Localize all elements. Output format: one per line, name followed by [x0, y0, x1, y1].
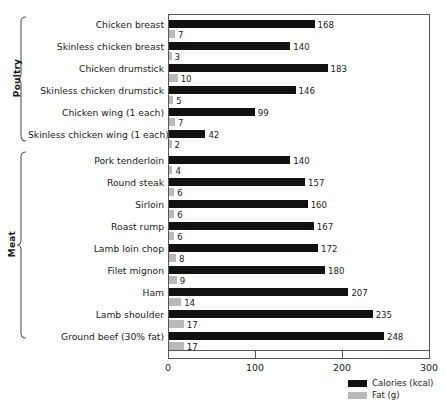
bar-calories	[169, 266, 325, 274]
bar-calories	[169, 332, 384, 340]
bar-value-fat: 17	[187, 343, 198, 351]
bar-calories	[169, 108, 255, 116]
bar-value-fat: 9	[180, 277, 185, 285]
bar-value-fat: 6	[177, 233, 182, 241]
bar-fat	[169, 96, 173, 104]
bar-fat	[169, 232, 174, 240]
bar-calories	[169, 156, 290, 164]
x-axis-line	[168, 358, 430, 359]
category-label: Lamb loin chop	[28, 244, 164, 254]
bar-value-calories: 248	[387, 333, 403, 341]
bar-fat	[169, 52, 172, 60]
bar-value-fat: 3	[175, 53, 180, 61]
bar-fat	[169, 140, 172, 148]
bar-fat	[169, 276, 177, 284]
x-tick-label: 100	[246, 362, 264, 373]
category-label: Pork tenderloin	[28, 156, 164, 166]
category-label: Skinless chicken drumstick	[28, 86, 164, 96]
legend-entry-calories: Calories (kcal)	[348, 378, 433, 389]
bar-fat	[169, 74, 178, 82]
legend: Calories (kcal) Fat (g)	[348, 378, 433, 402]
bar-value-fat: 4	[175, 167, 180, 175]
bar-calories	[169, 310, 373, 318]
bar-fat	[169, 188, 174, 196]
bar-value-calories: 172	[321, 245, 337, 253]
category-label: Sirloin	[28, 200, 164, 210]
x-tick-label: 0	[165, 362, 171, 373]
bar-value-calories: 157	[308, 179, 324, 187]
bar-fat	[169, 166, 172, 174]
category-label: Chicken breast	[28, 20, 164, 30]
bar-value-fat: 14	[184, 299, 195, 307]
bar-chart: Poultry Meat Chicken breast Skinless chi…	[0, 0, 446, 404]
x-tick	[255, 351, 256, 358]
bar-value-calories: 183	[331, 65, 347, 73]
legend-label-fat: Fat (g)	[372, 391, 400, 400]
legend-swatch-calories	[348, 380, 367, 387]
category-label: Chicken wing (1 each)	[28, 108, 164, 118]
category-label: Skinless chicken breast	[28, 42, 164, 52]
bar-calories	[169, 130, 205, 138]
bar-value-fat: 7	[178, 119, 183, 127]
bar-value-calories: 140	[293, 157, 309, 165]
x-tick-label: 200	[333, 362, 351, 373]
bar-value-fat: 5	[176, 97, 181, 105]
bar-value-fat: 8	[179, 255, 184, 263]
bar-calories	[169, 244, 318, 252]
bar-calories	[169, 64, 328, 72]
bar-calories	[169, 222, 314, 230]
category-label: Filet mignon	[28, 266, 164, 276]
bar-calories	[169, 20, 315, 28]
bar-value-fat: 10	[181, 75, 192, 83]
bar-fat	[169, 210, 174, 218]
x-tick	[342, 351, 343, 358]
category-label: Chicken drumstick	[28, 64, 164, 74]
category-label: Round steak	[28, 178, 164, 188]
bar-value-calories: 167	[317, 223, 333, 231]
bar-value-fat: 17	[187, 321, 198, 329]
legend-swatch-fat	[348, 392, 367, 399]
category-label: Ground beef (30% fat)	[28, 332, 164, 342]
group-label-meat: Meat	[7, 214, 17, 274]
bar-fat	[169, 30, 175, 38]
bar-value-calories: 180	[328, 267, 344, 275]
bar-value-calories: 42	[208, 131, 219, 139]
bar-value-fat: 2	[175, 141, 180, 149]
x-tick	[168, 351, 169, 358]
category-label: Roast rump	[28, 222, 164, 232]
bar-value-calories: 99	[258, 109, 269, 117]
bar-calories	[169, 200, 308, 208]
category-label: Lamb shoulder	[28, 310, 164, 320]
bar-calories	[169, 178, 305, 186]
bar-calories	[169, 42, 290, 50]
legend-entry-fat: Fat (g)	[348, 390, 433, 401]
bar-value-calories: 168	[318, 21, 334, 29]
bar-value-calories: 207	[351, 289, 367, 297]
bar-fat	[169, 342, 184, 350]
bar-value-calories: 146	[299, 87, 315, 95]
bars-layer: 1687140318310146599742214041576160616761…	[169, 15, 429, 350]
bar-value-fat: 6	[177, 189, 182, 197]
category-label: Ham	[28, 288, 164, 298]
legend-label-calories: Calories (kcal)	[372, 379, 433, 388]
group-label-poultry: Poultry	[12, 48, 22, 108]
bar-value-fat: 6	[177, 211, 182, 219]
x-tick	[429, 351, 430, 358]
bar-calories	[169, 288, 348, 296]
bar-fat	[169, 298, 181, 306]
bar-value-calories: 235	[376, 311, 392, 319]
bar-fat	[169, 254, 176, 262]
bar-value-fat: 7	[178, 31, 183, 39]
category-label: Skinless chicken wing (1 each)	[28, 130, 164, 140]
bar-calories	[169, 86, 296, 94]
bar-value-calories: 160	[311, 201, 327, 209]
bar-fat	[169, 320, 184, 328]
x-tick-label: 300	[420, 362, 438, 373]
bar-value-calories: 140	[293, 43, 309, 51]
bar-fat	[169, 118, 175, 126]
